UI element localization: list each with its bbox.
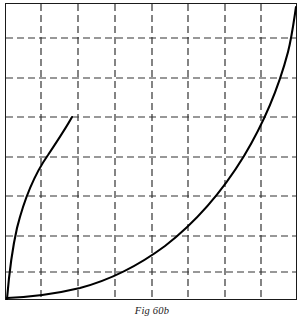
figure-caption: Fig 60b: [0, 305, 304, 316]
plot-frame: [5, 3, 297, 300]
figure-60b: Fig 60b: [0, 0, 304, 327]
